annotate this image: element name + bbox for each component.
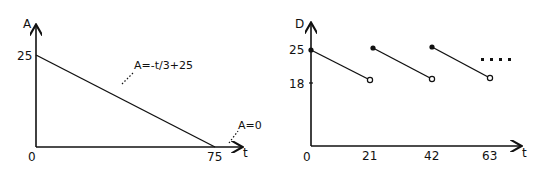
left-chart: A t 0 25 75 A=-t/3+25 A=0 bbox=[17, 17, 262, 164]
left-y-axis-label: A bbox=[23, 17, 32, 31]
left-annotation-zero: A=0 bbox=[238, 119, 262, 132]
closed-dot bbox=[308, 47, 313, 52]
right-y-axis-label: D bbox=[295, 17, 304, 31]
right-x-tick-63: 63 bbox=[482, 149, 497, 163]
left-x-tick-75: 75 bbox=[207, 150, 222, 164]
open-dot bbox=[367, 77, 372, 82]
right-x-tick-42: 42 bbox=[424, 149, 439, 163]
open-dot bbox=[487, 75, 492, 80]
segment-2 bbox=[370, 45, 434, 81]
right-x-tick-21: 21 bbox=[362, 149, 377, 163]
open-dot bbox=[429, 76, 434, 81]
left-y-tick-25: 25 bbox=[17, 49, 32, 63]
figure: A t 0 25 75 A=-t/3+25 A=0 D t 0 25 18 21… bbox=[0, 0, 540, 171]
right-y-tick-18: 18 bbox=[289, 77, 304, 91]
segment-1 bbox=[308, 47, 372, 82]
left-annotation-line: A=-t/3+25 bbox=[134, 59, 193, 72]
right-x-axis-label: t bbox=[522, 146, 527, 160]
closed-dot bbox=[370, 45, 375, 50]
left-x-axis-label: t bbox=[243, 146, 248, 160]
right-chart: D t 0 25 18 21 42 63 bbox=[289, 17, 527, 164]
left-zero-pointer bbox=[229, 131, 238, 143]
closed-dot bbox=[429, 44, 434, 49]
right-y-tick-25: 25 bbox=[289, 43, 304, 57]
right-origin-label: 0 bbox=[303, 150, 311, 164]
left-origin-label: 0 bbox=[28, 150, 36, 164]
segment-3 bbox=[429, 44, 492, 80]
continuation-dots bbox=[481, 58, 511, 61]
left-annotation-pointer bbox=[122, 72, 134, 84]
